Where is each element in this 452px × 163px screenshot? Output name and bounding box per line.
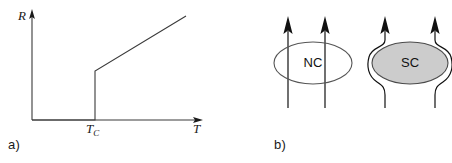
panel-b-caption: b) bbox=[274, 137, 286, 152]
x-axis-label: T bbox=[193, 121, 200, 137]
nc-field-line-left bbox=[283, 16, 292, 108]
panel-a-resistance-plot: R T TC a) bbox=[0, 0, 226, 163]
resistance-curve bbox=[32, 16, 186, 120]
panel-a-caption: a) bbox=[8, 137, 20, 152]
panel-a-graphic bbox=[0, 0, 226, 163]
normal-conductor-label: NC bbox=[296, 55, 330, 70]
figure-root: R T TC a) bbox=[0, 0, 452, 163]
superconductor-label: SC bbox=[393, 55, 427, 70]
panel-b-meissner-diagram: NC SC b) bbox=[226, 0, 452, 163]
resistance-curve-path bbox=[32, 16, 186, 120]
y-axis bbox=[29, 9, 35, 120]
critical-temperature-subscript: C bbox=[93, 128, 99, 138]
y-axis-label: R bbox=[18, 8, 26, 24]
panel-b-graphic bbox=[226, 0, 452, 163]
critical-temperature-tick-label: TC bbox=[86, 121, 99, 137]
